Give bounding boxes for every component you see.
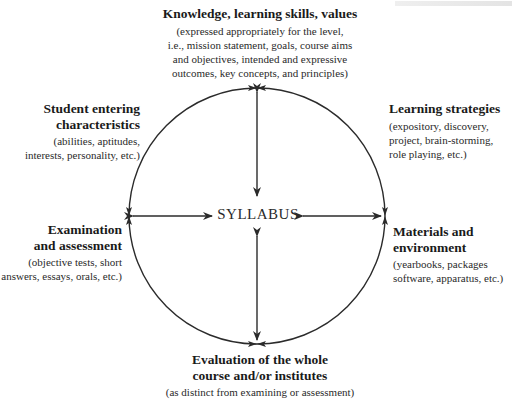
node-materials-detail: (yearbooks, packages software, apparatus…: [393, 257, 512, 286]
node-evaluation-title: Evaluation of the whole course and/or in…: [130, 352, 390, 383]
node-evaluation-detail: (as distinct from examining or assessmen…: [130, 385, 390, 399]
center-syllabus-label: SYLLABUS: [208, 206, 308, 223]
node-examination-detail: (objective tests, short answers, essays,…: [0, 255, 122, 284]
node-learning-strategies: Learning strategies (expository, discove…: [389, 101, 512, 161]
node-materials-title: Materials and environment: [393, 224, 512, 255]
node-knowledge-title: Knowledge, learning skills, values: [150, 6, 370, 22]
node-materials: Materials and environment (yearbooks, pa…: [393, 224, 512, 286]
node-examination-title: Examination and assessment: [0, 222, 122, 253]
node-student-characteristics: Student entering characteristics (abilit…: [4, 101, 140, 163]
node-evaluation: Evaluation of the whole course and/or in…: [130, 352, 390, 399]
node-student-detail: (abilities, aptitudes, interests, person…: [4, 134, 140, 163]
node-examination: Examination and assessment (objective te…: [0, 222, 122, 284]
node-knowledge: Knowledge, learning skills, values (expr…: [150, 6, 370, 81]
node-strategies-title: Learning strategies: [389, 101, 512, 117]
node-strategies-detail: (expository, discovery, project, brain-s…: [389, 119, 512, 162]
node-student-title: Student entering characteristics: [4, 101, 140, 132]
node-knowledge-detail: (expressed appropriately for the level, …: [150, 24, 370, 81]
